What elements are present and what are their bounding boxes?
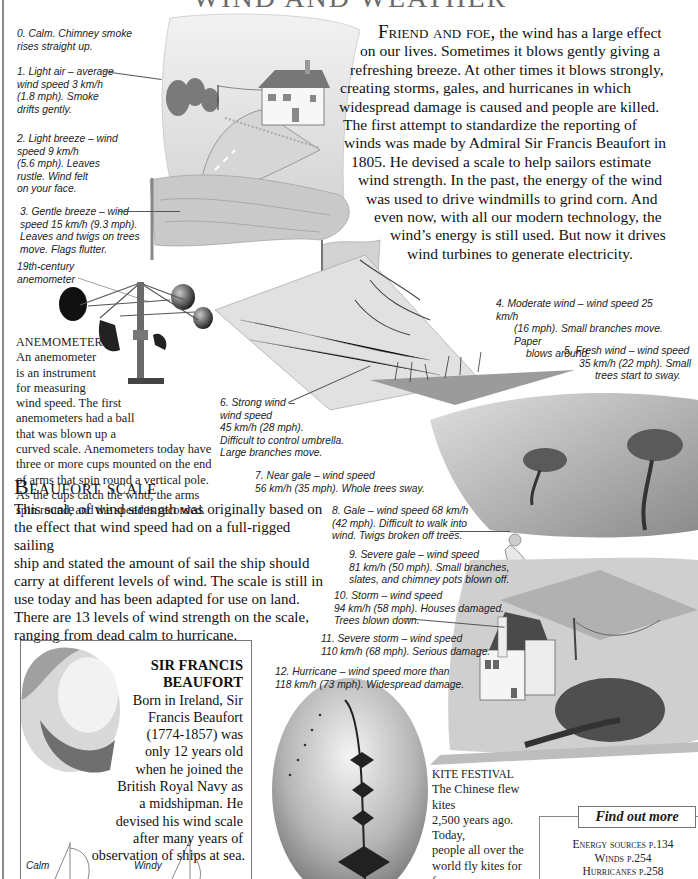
- ship-label-windy: Windy: [134, 860, 162, 873]
- find-out-more-links: Energy sources p.134 Winds p.254 Hurrica…: [548, 838, 698, 879]
- ship-label-calm: Calm: [26, 860, 49, 873]
- biography-title-line-1: SIR FRANCIS: [43, 657, 243, 674]
- scale-level-9-caption: 9. Severe gale – wind speed 81 km/h (50 …: [349, 549, 509, 587]
- beaufort-scale-body: This scale of wind strength was original…: [14, 500, 334, 644]
- biography-text: SIR FRANCIS BEAUFORT Born in Ireland, Si…: [43, 657, 243, 865]
- beaufort-biography-box: SIR FRANCIS BEAUFORT Born in Ireland, Si…: [20, 640, 252, 879]
- scale-level-0-caption: 0. Calm. Chimney smoke rises straight up…: [17, 28, 132, 53]
- link-hurricanes[interactable]: Hurricanes p.258: [548, 865, 698, 879]
- scale-level-1-caption: 1. Light air – average wind speed 3 km/h…: [17, 66, 114, 116]
- scale-level-12-caption: 12. Hurricane – wind speed more than 118…: [275, 666, 464, 691]
- intro-lead: Friend and foe,: [378, 21, 495, 42]
- intro-paragraph: Friend and foe, the wind has a large eff…: [348, 23, 698, 263]
- kite-festival-heading: Kite festival: [432, 767, 542, 782]
- link-energy-sources[interactable]: Energy sources p.134: [548, 838, 698, 852]
- kite-festival-section: Kite festival The Chinese flew kites 2,5…: [432, 767, 542, 879]
- scale-level-3-caption: 3. Gentle breeze – wind speed 15 km/h (9…: [20, 206, 140, 256]
- find-out-more-title: Find out more: [578, 806, 696, 828]
- scale-level-11-caption: 11. Severe storm – wind speed 110 km/h (…: [321, 633, 490, 658]
- intro-line-0: Friend and foe, the wind has a large eff…: [348, 23, 698, 42]
- leader-line-level-8: [450, 531, 510, 532]
- beaufort-scale-heading: Beaufort scale: [14, 474, 334, 500]
- beaufort-scale-section: Beaufort scale This scale of wind streng…: [14, 474, 334, 644]
- scale-level-8-caption: 8. Gale – wind speed 68 km/h (42 mph). D…: [332, 505, 468, 543]
- scale-level-2-caption: 2. Light breeze – wind speed 9 km/h (5.6…: [17, 133, 118, 196]
- link-winds[interactable]: Winds p.254: [548, 852, 698, 866]
- scale-level-5-caption: 5. Fresh wind – wind speed 35 km/h (22 m…: [564, 345, 694, 383]
- anemometer-heading: Anemometer: [16, 335, 246, 350]
- scale-level-10-caption: 10. Storm – wind speed 94 km/h (58 mph).…: [334, 590, 504, 628]
- anemometer-image-caption: 19th-century anemometer: [17, 261, 75, 286]
- leader-line-level-3: [118, 211, 180, 212]
- biography-title-line-2: BEAUFORT: [43, 674, 243, 691]
